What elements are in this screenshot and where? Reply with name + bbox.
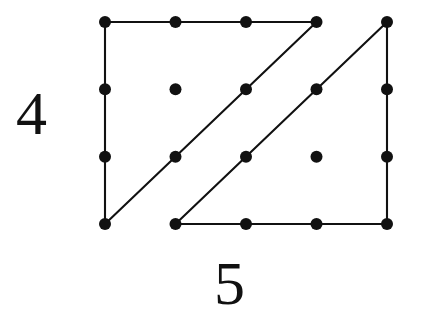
triangle-right: [176, 22, 388, 224]
lattice-point-c2-r0: [240, 16, 252, 28]
lattice-point-c4-r1: [381, 83, 393, 95]
lattice-point-c1-r2: [170, 151, 182, 163]
triangle-left: [105, 22, 317, 224]
lattice-point-c0-r2: [99, 151, 111, 163]
lattice-point-c2-r2: [240, 151, 252, 163]
lattice-point-c4-r2: [381, 151, 393, 163]
lattice-point-c4-r0: [381, 16, 393, 28]
lattice-point-c1-r0: [170, 16, 182, 28]
lattice-point-c3-r0: [311, 16, 323, 28]
lattice-figure: 4 5: [0, 0, 421, 329]
triangle-layer: [105, 22, 387, 224]
triangle-right-hypotenuse: [176, 22, 388, 224]
triangle-left-hypotenuse: [105, 22, 317, 224]
lattice-point-c3-r3: [311, 218, 323, 230]
lattice-point-c0-r0: [99, 16, 111, 28]
column-count-label: 5: [214, 252, 245, 314]
lattice-point-c2-r1: [240, 83, 252, 95]
lattice-point-c1-r1: [170, 83, 182, 95]
row-count-label: 4: [16, 82, 47, 144]
lattice-point-c0-r3: [99, 218, 111, 230]
lattice-point-c3-r2: [311, 151, 323, 163]
lattice-point-c1-r3: [170, 218, 182, 230]
lattice-diagram-canvas: [0, 0, 421, 329]
lattice-point-c0-r1: [99, 83, 111, 95]
lattice-point-c4-r3: [381, 218, 393, 230]
lattice-point-c2-r3: [240, 218, 252, 230]
lattice-point-layer: [99, 16, 393, 230]
lattice-point-c3-r1: [311, 83, 323, 95]
